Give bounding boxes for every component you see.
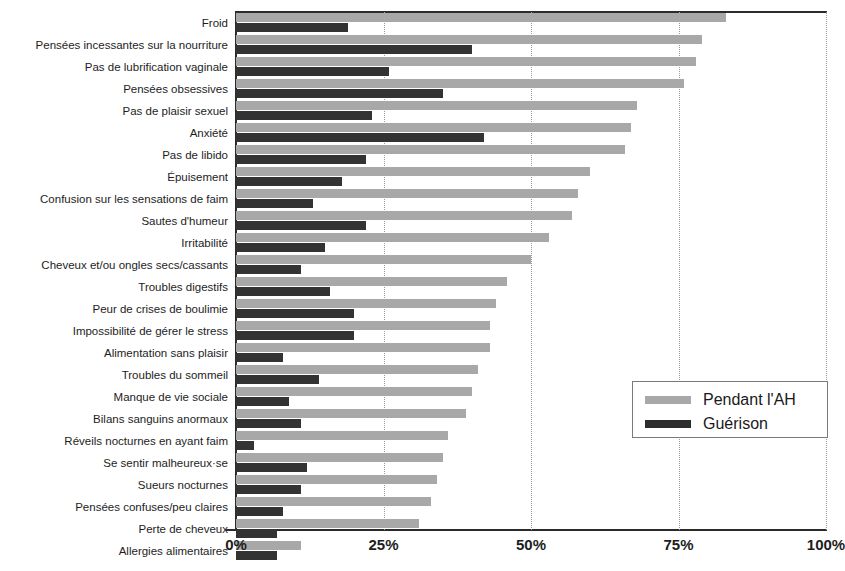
category-label: Pensées incessantes sur la nourriture [0, 34, 232, 56]
bar-during [236, 321, 490, 330]
legend-label-during: Pendant l'AH [703, 391, 796, 409]
bar-recovery [236, 243, 325, 252]
bar-during [236, 167, 590, 176]
bar-row [236, 34, 826, 56]
gridline-100% [826, 12, 828, 530]
bar-during [236, 453, 443, 462]
bar-recovery [236, 199, 313, 208]
category-label: Confusion sur les sensations de faim [0, 188, 232, 210]
bar-row [236, 496, 826, 518]
bar-recovery [236, 111, 372, 120]
category-label: Pas de lubrification vaginale [0, 56, 232, 78]
bar-during [236, 145, 625, 154]
bar-recovery [236, 507, 283, 516]
bar-during [236, 277, 507, 286]
x-tick-label: 0% [225, 536, 247, 553]
bar-during [236, 365, 478, 374]
bar-row [236, 232, 826, 254]
bar-recovery [236, 265, 301, 274]
bar-during [236, 101, 637, 110]
category-label: Pensées confuses/peu claires [0, 496, 232, 518]
bar-recovery [236, 397, 289, 406]
category-label: Pensées obsessives [0, 78, 232, 100]
bar-recovery [236, 155, 366, 164]
x-tick-label: 100% [807, 536, 845, 553]
x-tick-label: 75% [663, 536, 693, 553]
bar-recovery [236, 485, 301, 494]
bar-during [236, 35, 702, 44]
bar-row [236, 298, 826, 320]
category-label: Troubles digestifs [0, 276, 232, 298]
bar-row [236, 12, 826, 34]
x-tick-label: 50% [516, 536, 546, 553]
category-label: Bilans sanguins anormaux [0, 408, 232, 430]
bar-recovery [236, 331, 354, 340]
legend-swatch-icon-during [645, 396, 691, 404]
bar-recovery [236, 221, 366, 230]
bar-row [236, 452, 826, 474]
bar-recovery [236, 419, 301, 428]
category-label: Impossibilité de gérer le stress [0, 320, 232, 342]
bar-row [236, 188, 826, 210]
bar-during [236, 189, 578, 198]
category-label: Pas de libido [0, 144, 232, 166]
bar-recovery [236, 67, 389, 76]
legend-item-during: Pendant l'AH [633, 388, 827, 412]
category-axis-labels: FroidPensées incessantes sur la nourritu… [0, 12, 232, 530]
bar-row [236, 254, 826, 276]
category-label: Alimentation sans plaisir [0, 342, 232, 364]
bar-row [236, 320, 826, 342]
legend-item-recovery: Guérison [633, 412, 827, 436]
bar-rows [236, 12, 826, 530]
bar-during [236, 211, 572, 220]
bar-during [236, 233, 549, 242]
bar-during [236, 57, 696, 66]
category-label: Peur de crises de boulimie [0, 298, 232, 320]
bar-recovery [236, 177, 342, 186]
bar-recovery [236, 23, 348, 32]
bar-during [236, 123, 631, 132]
bar-row [236, 342, 826, 364]
bar-recovery [236, 353, 283, 362]
category-label: Épuisement [0, 166, 232, 188]
bar-row [236, 122, 826, 144]
category-label: Sueurs nocturnes [0, 474, 232, 496]
bar-during [236, 343, 490, 352]
bar-during [236, 387, 472, 396]
bar-recovery [236, 309, 354, 318]
category-label: Cheveux et/ou ongles secs/cassants [0, 254, 232, 276]
bar-during [236, 299, 496, 308]
bar-row [236, 100, 826, 122]
category-label: Réveils nocturnes en ayant faim [0, 430, 232, 452]
bar-recovery [236, 463, 307, 472]
bar-row [236, 166, 826, 188]
bar-recovery [236, 89, 443, 98]
bar-row [236, 276, 826, 298]
bar-recovery [236, 133, 484, 142]
bar-during [236, 431, 448, 440]
legend-swatch-icon-recovery [645, 420, 691, 428]
category-label: Irritabilité [0, 232, 232, 254]
bar-during [236, 519, 419, 528]
bar-during [236, 79, 684, 88]
bar-during [236, 409, 466, 418]
plot-area [236, 12, 826, 530]
bar-during [236, 255, 531, 264]
legend-label-recovery: Guérison [703, 415, 768, 433]
bar-recovery [236, 375, 319, 384]
category-label: Anxiété [0, 122, 232, 144]
category-label: Se sentir malheureux·se [0, 452, 232, 474]
x-tick-label: 25% [368, 536, 398, 553]
chart-legend: Pendant l'AH Guérison [632, 381, 828, 438]
bar-recovery [236, 287, 330, 296]
category-label: Troubles du sommeil [0, 364, 232, 386]
x-axis-tick-labels: 0%25%50%75%100% [0, 536, 834, 564]
bar-row [236, 210, 826, 232]
bar-row [236, 144, 826, 166]
bar-during [236, 13, 726, 22]
category-label: Pas de plaisir sexuel [0, 100, 232, 122]
bar-recovery [236, 441, 254, 450]
category-label: Froid [0, 12, 232, 34]
bar-recovery [236, 45, 472, 54]
